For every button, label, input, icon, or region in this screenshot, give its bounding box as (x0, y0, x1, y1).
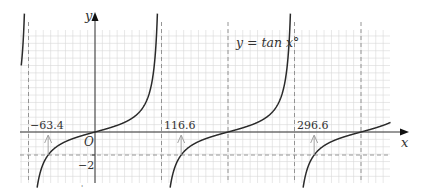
solution-label-neg63: −63.4 (30, 120, 64, 131)
y-tick-label-neg2: −2 (78, 160, 94, 171)
solution-label-116: 116.6 (164, 120, 196, 131)
y-axis-arrow-icon (92, 12, 99, 21)
function-label: y = tan x° (236, 37, 299, 50)
footer-mark: ' (81, 184, 83, 192)
y-axis-label: y (85, 9, 92, 22)
axes (20, 12, 409, 183)
x-axis-label: x (401, 136, 408, 149)
grid (20, 30, 390, 183)
tan-graph (0, 0, 429, 193)
solution-label-296: 296.6 (297, 120, 329, 131)
function-label-text: y = tan x° (236, 35, 299, 50)
origin-label: O (84, 136, 94, 148)
tan-branch (21, 14, 24, 66)
